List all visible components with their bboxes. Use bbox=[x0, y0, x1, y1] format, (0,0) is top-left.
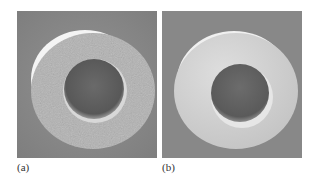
tube-image-a bbox=[17, 11, 157, 158]
image-panel-a bbox=[17, 11, 157, 158]
image-panel-b bbox=[162, 11, 302, 158]
tube-image-b bbox=[162, 11, 302, 158]
panel-label-a: (a) bbox=[17, 161, 29, 173]
panel-label-b: (b) bbox=[162, 161, 175, 173]
